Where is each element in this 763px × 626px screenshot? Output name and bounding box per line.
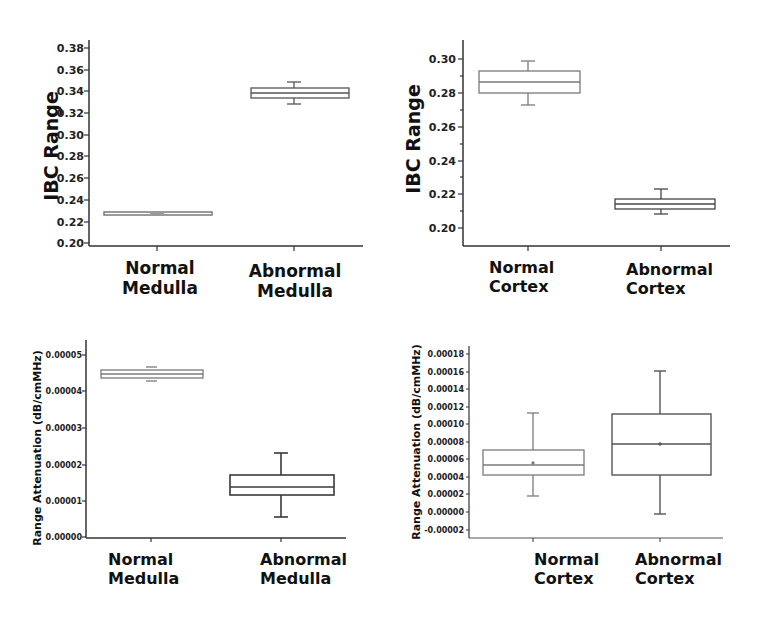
y-tick-labels: 0.30 0.28 0.26 0.24 0.22 0.20 bbox=[429, 53, 456, 235]
y-axis-label: Range Attenuation (dB/cmMHz) bbox=[410, 344, 423, 540]
box-abnormal-medulla bbox=[230, 453, 334, 517]
box-normal-medulla bbox=[101, 367, 203, 381]
y-ticks bbox=[466, 354, 660, 542]
svg-text:0.00010: 0.00010 bbox=[428, 420, 465, 429]
box-normal-cortex bbox=[479, 61, 580, 105]
box-abnormal-medulla bbox=[251, 82, 349, 104]
category-label-normal-cortex: NormalCortex bbox=[489, 258, 579, 296]
svg-text:0.30: 0.30 bbox=[57, 129, 84, 142]
svg-text:0.28: 0.28 bbox=[429, 87, 456, 100]
svg-text:0.22: 0.22 bbox=[429, 188, 456, 201]
svg-text:0.00001: 0.00001 bbox=[46, 497, 83, 506]
svg-text:0.00004: 0.00004 bbox=[46, 387, 83, 396]
svg-text:0.32: 0.32 bbox=[57, 107, 84, 120]
svg-text:0.24: 0.24 bbox=[57, 194, 84, 207]
category-label-normal-medulla: NormalMedulla bbox=[108, 550, 198, 588]
box-abnormal-cortex bbox=[615, 189, 715, 214]
svg-text:0.00016: 0.00016 bbox=[428, 368, 465, 377]
y-ticks bbox=[458, 59, 661, 251]
category-label-abnormal-cortex: AbnormalCortex bbox=[626, 260, 726, 298]
chart-attenuation-cortex: Range Attenuation (dB/cmMHz) 0.00018 0.0… bbox=[380, 310, 763, 626]
y-axis-label: IBC Range bbox=[402, 84, 424, 194]
category-label-normal-cortex: NormalCortex bbox=[534, 550, 624, 588]
svg-text:0.00008: 0.00008 bbox=[428, 438, 465, 447]
box-normal-medulla bbox=[104, 211, 212, 216]
svg-text:0.00018: 0.00018 bbox=[428, 350, 465, 359]
svg-text:0.00002: 0.00002 bbox=[46, 461, 82, 470]
y-tick-labels: 0.00018 0.00016 0.00014 0.00012 0.00010 … bbox=[424, 350, 464, 535]
chart-ibc-cortex: IBC Range 0.30 0.28 0.26 0.24 0.22 0.20 bbox=[380, 0, 763, 310]
box-abnormal-cortex bbox=[612, 371, 711, 514]
category-label-normal-medulla: NormalMedulla bbox=[110, 258, 210, 299]
chart-attenuation-medulla: Range Attenuation (dB/cmMHz) 0.00005 0.0… bbox=[0, 310, 380, 626]
y-tick-labels: 0.00005 0.00004 0.00003 0.00002 0.00001 … bbox=[46, 351, 83, 542]
svg-text:0.00005: 0.00005 bbox=[46, 351, 83, 360]
category-label-abnormal-cortex: AbnormalCortex bbox=[635, 550, 735, 588]
svg-text:0.00000: 0.00000 bbox=[46, 533, 83, 542]
svg-text:0.00003: 0.00003 bbox=[46, 424, 82, 433]
svg-text:0.00012: 0.00012 bbox=[428, 403, 464, 412]
svg-text:0.38: 0.38 bbox=[57, 42, 84, 55]
category-label-abnormal-medulla: AbnormalMedulla bbox=[240, 261, 350, 302]
svg-text:0.00014: 0.00014 bbox=[428, 385, 465, 394]
svg-text:0.26: 0.26 bbox=[429, 121, 456, 134]
svg-text:0.36: 0.36 bbox=[57, 64, 84, 77]
svg-text:0.26: 0.26 bbox=[57, 172, 84, 185]
svg-text:0.20: 0.20 bbox=[429, 222, 456, 235]
svg-text:0.00002: 0.00002 bbox=[428, 490, 464, 499]
chart-ibc-medulla: IBC Range 0.38 0.36 0.34 0.32 0.30 0.28 … bbox=[0, 0, 380, 310]
y-ticks bbox=[82, 355, 281, 542]
y-axis-label: Range Attenuation (dB/cmMHz) bbox=[31, 350, 44, 546]
svg-text:0.00000: 0.00000 bbox=[428, 508, 465, 517]
category-label-abnormal-medulla: AbnormalMedulla bbox=[260, 550, 360, 588]
svg-text:0.24: 0.24 bbox=[429, 155, 456, 168]
svg-text:0.28: 0.28 bbox=[57, 150, 84, 163]
y-ticks bbox=[84, 48, 294, 251]
svg-text:-0.00002: -0.00002 bbox=[424, 526, 464, 535]
svg-text:0.00006: 0.00006 bbox=[428, 455, 465, 464]
svg-text:0.00004: 0.00004 bbox=[428, 473, 465, 482]
svg-text:0.20: 0.20 bbox=[57, 237, 84, 250]
svg-text:0.30: 0.30 bbox=[429, 53, 456, 66]
box-normal-cortex bbox=[483, 413, 584, 496]
svg-text:0.34: 0.34 bbox=[57, 85, 84, 98]
svg-text:0.22: 0.22 bbox=[57, 216, 84, 229]
